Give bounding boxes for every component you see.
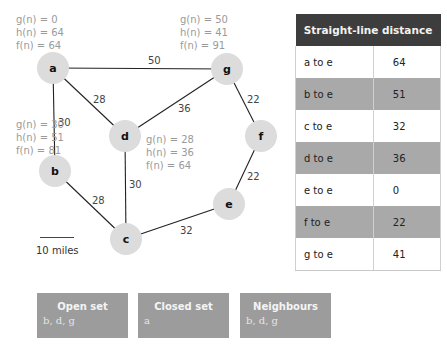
node-b-f: f(n) = 81 xyxy=(16,144,64,157)
node-label: c xyxy=(123,233,130,246)
closed-set-value: a xyxy=(144,315,229,326)
table-row: b to e51 xyxy=(296,78,441,110)
row-pair: a to e xyxy=(296,46,374,78)
table-row: d to e36 xyxy=(296,142,441,174)
row-pair: f to e xyxy=(296,206,374,238)
row-distance: 0 xyxy=(373,174,440,206)
table-row: g to e41 xyxy=(296,238,441,271)
row-distance: 22 xyxy=(373,206,440,238)
table-row: e to e0 xyxy=(296,174,441,206)
neighbours-value: b, d, g xyxy=(246,315,331,326)
edge-weight-f-e: 22 xyxy=(247,171,260,182)
edge-g-d xyxy=(125,69,227,136)
node-a: a xyxy=(37,52,69,84)
edge-weight-g-f: 22 xyxy=(247,94,260,105)
node-label: e xyxy=(225,198,232,211)
table-title: Straight-line distance xyxy=(296,14,441,46)
node-d-f: f(n) = 64 xyxy=(146,159,194,172)
node-label: f xyxy=(259,130,264,143)
edge-c-e xyxy=(126,204,229,239)
node-a-annotation: g(n) = 0 h(n) = 64 f(n) = 64 xyxy=(16,13,64,52)
open-set-value: b, d, g xyxy=(43,315,128,326)
node-label: a xyxy=(49,62,56,75)
node-e: e xyxy=(213,188,245,220)
node-g-f: f(n) = 91 xyxy=(180,39,228,52)
row-pair: g to e xyxy=(296,238,374,271)
row-pair: e to e xyxy=(296,174,374,206)
node-g: g xyxy=(211,53,243,85)
row-distance: 36 xyxy=(373,142,440,174)
node-d-g: g(n) = 28 xyxy=(146,133,194,146)
node-d: d xyxy=(109,120,141,152)
node-a-g: g(n) = 0 xyxy=(16,13,64,26)
row-distance: 64 xyxy=(373,46,440,78)
closed-set-title: Closed set xyxy=(138,301,229,312)
edge-a-g xyxy=(53,68,227,69)
row-pair: d to e xyxy=(296,142,374,174)
neighbours-title: Neighbours xyxy=(240,301,331,312)
node-d-annotation: g(n) = 28 h(n) = 36 f(n) = 64 xyxy=(146,133,194,172)
node-c: c xyxy=(110,223,142,255)
node-b-annotation: g(n) = 30 h(n) = 51 f(n) = 81 xyxy=(16,118,64,157)
open-set-title: Open set xyxy=(37,301,128,312)
node-b-g: g(n) = 30 xyxy=(16,118,64,131)
edge-weight-g-d: 36 xyxy=(178,103,191,114)
table-row: f to e22 xyxy=(296,206,441,238)
node-b-h: h(n) = 51 xyxy=(16,131,64,144)
open-set-panel: Open set b, d, g xyxy=(37,293,128,338)
edge-weight-a-g: 50 xyxy=(148,55,161,66)
node-a-h: h(n) = 64 xyxy=(16,26,64,39)
node-label: g xyxy=(223,63,231,76)
edge-weight-c-e: 32 xyxy=(180,225,193,236)
neighbours-panel: Neighbours b, d, g xyxy=(240,293,331,338)
edge-weight-a-d: 28 xyxy=(93,94,106,105)
node-label: d xyxy=(121,130,129,143)
scale-bar xyxy=(40,237,74,238)
node-a-f: f(n) = 64 xyxy=(16,39,64,52)
node-d-h: h(n) = 36 xyxy=(146,146,194,159)
node-label: b xyxy=(51,165,59,178)
edge-weight-b-c: 28 xyxy=(92,195,105,206)
row-distance: 32 xyxy=(373,110,440,142)
node-g-h: h(n) = 41 xyxy=(180,26,228,39)
closed-set-panel: Closed set a xyxy=(138,293,229,338)
row-distance: 51 xyxy=(373,78,440,110)
table-row: c to e32 xyxy=(296,110,441,142)
node-b: b xyxy=(39,155,71,187)
node-f: f xyxy=(245,120,277,152)
row-pair: c to e xyxy=(296,110,374,142)
node-g-g: g(n) = 50 xyxy=(180,13,228,26)
scale-label: 10 miles xyxy=(36,245,79,256)
row-distance: 41 xyxy=(373,238,440,271)
table-row: a to e64 xyxy=(296,46,441,78)
straight-line-distance-table: Straight-line distance a to e64 b to e51… xyxy=(295,14,441,271)
node-g-annotation: g(n) = 50 h(n) = 41 f(n) = 91 xyxy=(180,13,228,52)
edge-weight-d-c: 30 xyxy=(129,179,142,190)
row-pair: b to e xyxy=(296,78,374,110)
